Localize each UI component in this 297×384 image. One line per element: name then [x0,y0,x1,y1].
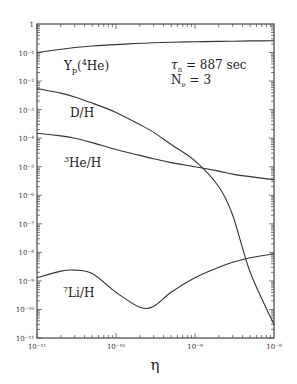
annotation-nnu: Nν = 3 [171,73,211,89]
y-tick-label: 10⁻¹ [19,50,35,58]
y-tick-label: 10⁻⁷ [19,221,35,229]
curve-yp-4he- [37,41,274,53]
y-tick-label: 10⁻⁶ [19,192,35,200]
x-axis-title: η [151,356,160,374]
x-tick-label: 10⁻⁸ [266,343,282,351]
y-tick-labels: 110⁻¹10⁻²10⁻³10⁻⁴10⁻⁵10⁻⁶10⁻⁷10⁻⁸10⁻⁹10⁻… [16,21,34,343]
label-he3: 3He/H [64,155,101,170]
x-tick-label: 10⁻¹⁰ [107,343,125,351]
annotation-tau: τn = 887 sec [171,58,247,74]
y-tick-label: 10⁻⁴ [19,135,35,143]
curves [37,41,274,325]
x-tick-labels: 10⁻¹¹10⁻¹⁰10⁻⁹10⁻⁸ [28,343,282,351]
y-tick-label: 10⁻³ [19,107,35,115]
label-dh: D/H [70,106,94,120]
curve-7li-h [37,254,274,309]
bbn-abundance-chart: 110⁻¹10⁻²10⁻³10⁻⁴10⁻⁵10⁻⁶10⁻⁷10⁻⁸10⁻⁹10⁻… [0,0,297,384]
y-tick-label: 1 [30,21,34,29]
x-tick-label: 10⁻⁹ [187,343,203,351]
y-tick-label: 10⁻¹¹ [16,335,34,343]
x-tick-label: 10⁻¹¹ [28,343,46,351]
y-tick-label: 10⁻⁵ [19,164,35,172]
y-tick-label: 10⁻⁹ [19,278,35,286]
y-tick-label: 10⁻¹⁰ [16,306,34,314]
y-tick-label: 10⁻⁸ [19,249,35,257]
label-yp: Yp(4He) [63,58,109,75]
y-tick-label: 10⁻² [19,78,35,86]
label-li7: 7Li/H [63,285,94,300]
